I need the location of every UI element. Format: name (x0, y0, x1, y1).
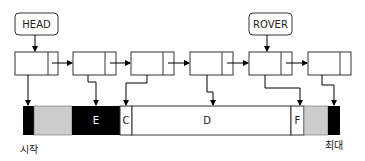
segment-c-label: C (123, 115, 130, 126)
block-pointers (28, 75, 334, 105)
segment-f-label: F (295, 115, 301, 126)
head-label: HEAD (22, 19, 51, 30)
head-pointer-box: HEAD (15, 13, 58, 35)
segment-allocated-start (23, 106, 34, 135)
list-node-3 (131, 52, 174, 75)
segment-allocated-end (328, 106, 340, 135)
rover-label: ROVER (253, 19, 288, 30)
segment-d (132, 106, 291, 135)
segment-free-gray-1 (34, 106, 72, 135)
list-node-4 (190, 52, 233, 75)
segment-e-label: E (93, 115, 99, 126)
start-label: 시작 (20, 144, 38, 155)
segment-d-label: D (203, 115, 211, 126)
rover-pointer-box: ROVER (249, 13, 292, 35)
memory-bar: E C D F (23, 106, 340, 135)
end-label: 최대 (325, 140, 343, 151)
list-node-5 (249, 52, 292, 75)
list-node-6 (308, 52, 351, 75)
segment-free-gray-2 (304, 106, 328, 135)
list-node-2 (73, 52, 116, 75)
memory-free-list-diagram: HEAD ROVER (0, 0, 365, 161)
list-node-1 (15, 52, 58, 75)
